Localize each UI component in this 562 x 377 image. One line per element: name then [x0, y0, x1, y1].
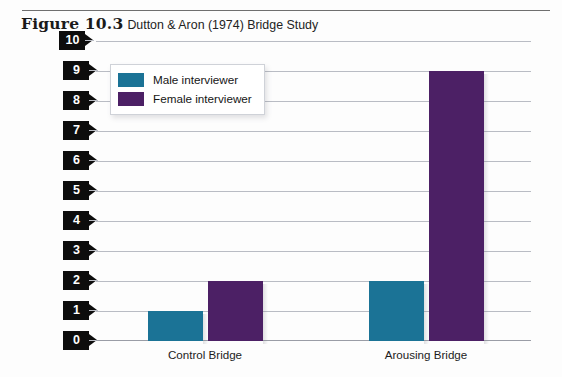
bar-fill [429, 71, 484, 341]
y-tick-label: 1 [63, 301, 89, 320]
x-tick-label-control-bridge: Control Bridge [150, 348, 260, 361]
y-tick-8: 8 [63, 91, 89, 110]
legend-item-female-interviewer[interactable]: Female interviewer [118, 89, 252, 108]
y-tick-2: 2 [63, 271, 89, 290]
y-tick-10: 10 [59, 31, 85, 50]
legend-swatch-male [118, 73, 144, 87]
y-tick-label: 5 [63, 181, 89, 200]
y-tick-4: 4 [63, 211, 89, 230]
legend-label-female: Female interviewer [153, 92, 252, 105]
y-tick-stub [85, 40, 94, 41]
y-tick-label: 2 [63, 271, 89, 290]
y-tick-label: 8 [63, 91, 89, 110]
legend-swatch-female [118, 92, 144, 106]
bar-control-female[interactable] [208, 281, 263, 341]
bar-fill [369, 281, 424, 341]
gridline-10 [96, 41, 531, 42]
y-tick-label: 7 [63, 121, 89, 140]
bar-control-male[interactable] [148, 311, 203, 341]
y-tick-7: 7 [63, 121, 89, 140]
legend-item-male-interviewer[interactable]: Male interviewer [118, 70, 252, 89]
bar-arousing-female[interactable] [429, 71, 484, 341]
y-tick-9: 9 [63, 61, 89, 80]
y-tick-0: 0 [63, 331, 89, 350]
y-tick-1: 1 [63, 301, 89, 320]
y-tick-label: 6 [63, 151, 89, 170]
y-tick-label: 0 [63, 331, 89, 350]
bar-arousing-male[interactable] [369, 281, 424, 341]
x-tick-label-arousing-bridge: Arousing Bridge [371, 348, 481, 361]
y-tick-label: 4 [63, 211, 89, 230]
y-tick-label: 9 [63, 61, 89, 80]
y-tick-3: 3 [63, 241, 89, 260]
bar-fill [208, 281, 263, 341]
bar-chart: Number of male subjects who called exper… [0, 0, 562, 377]
y-tick-label: 10 [59, 31, 85, 50]
chart-legend: Male interviewer Female interviewer [110, 64, 265, 115]
y-tick-label: 3 [63, 241, 89, 260]
y-tick-6: 6 [63, 151, 89, 170]
legend-label-male: Male interviewer [153, 73, 238, 86]
bar-fill [148, 311, 203, 341]
y-tick-5: 5 [63, 181, 89, 200]
